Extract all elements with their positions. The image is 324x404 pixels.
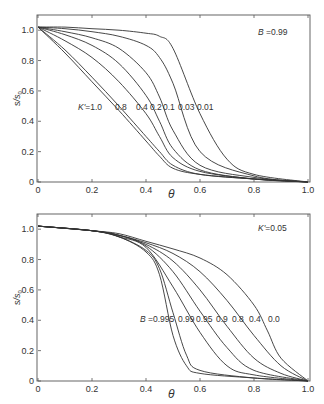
curve-label-b-0.9: 0.9 xyxy=(216,314,228,324)
curve-label-b-0.4: 0.4 xyxy=(249,314,261,324)
bottom-y-axis-label: s/s0 xyxy=(12,289,23,305)
curve-label-k-1.0: K'=1.0 xyxy=(78,102,102,112)
curve-label-k-0.8: 0.8 xyxy=(115,102,127,112)
curve-label-k-0.01: 0.01 xyxy=(197,102,214,112)
curve-label-b-0.99: 0.99 xyxy=(178,314,195,324)
bottom-annotation: K'=0.05 xyxy=(258,223,287,233)
bottom-chart-panel: 00.20.40.60.81.0 00.20.40.60.81.0 θ s/s0… xyxy=(12,214,314,401)
top-annotation: B =0.99 xyxy=(258,27,288,37)
x-tick-label: 0.2 xyxy=(86,384,99,394)
top-x-axis-label: θ xyxy=(168,187,175,201)
curve-b-0.0 xyxy=(38,226,308,381)
bottom-x-axis-label: θ xyxy=(168,387,175,401)
x-tick-label: 0.4 xyxy=(140,384,153,394)
y-tick-label: 0.6 xyxy=(21,285,34,295)
x-tick-label: 0.6 xyxy=(194,384,207,394)
top-y-axis-ticks: 00.20.40.60.81.0 xyxy=(21,25,41,187)
bottom-x-axis-ticks: 00.20.40.60.81.0 xyxy=(35,214,314,394)
curve-label-b-0.0: 0.0 xyxy=(268,314,280,324)
x-tick-label: 0.4 xyxy=(140,185,153,195)
curve-label-b-0.8: 0.8 xyxy=(232,314,244,324)
bottom-plot-frame xyxy=(37,214,310,381)
x-tick-label: 0.2 xyxy=(86,185,99,195)
y-tick-label: 0.6 xyxy=(21,86,34,96)
x-tick-label: 0.8 xyxy=(248,185,261,195)
top-curve-labels: K'=1.0 0.8 0.4 0.2 0.1 0.03 0.01 xyxy=(78,102,214,112)
top-chart-panel: 00.20.40.60.81.0 00.20.40.60.81.0 θ s/s0… xyxy=(12,15,314,201)
y-tick-label: 1.0 xyxy=(21,224,34,234)
y-tick-label: 0 xyxy=(29,177,34,187)
curve-label-b-0.95: 0.95 xyxy=(196,314,213,324)
curve-label-k-0.2: 0.2 xyxy=(150,102,162,112)
x-tick-label: 0 xyxy=(35,384,40,394)
top-y-axis-label: s/s0 xyxy=(12,90,23,106)
x-tick-label: 1.0 xyxy=(302,384,315,394)
y-tick-label: 0.8 xyxy=(21,255,34,265)
y-tick-label: 0.8 xyxy=(21,56,34,66)
y-tick-label: 0.4 xyxy=(21,116,34,126)
bottom-y-axis-ticks: 00.20.40.60.81.0 xyxy=(21,224,41,386)
top-plot-frame xyxy=(37,15,310,182)
y-tick-label: 0.2 xyxy=(21,346,34,356)
y-tick-label: 0.4 xyxy=(21,315,34,325)
bottom-curves xyxy=(38,226,308,381)
y-tick-label: 0.2 xyxy=(21,147,34,157)
x-tick-label: 0.6 xyxy=(194,185,207,195)
curve-label-k-0.03: 0.03 xyxy=(178,102,195,112)
x-tick-label: 1.0 xyxy=(302,185,315,195)
x-tick-label: 0 xyxy=(35,185,40,195)
curve-label-b-0.995: B =0.995 xyxy=(140,314,175,324)
bottom-curve-labels: B =0.995 0.99 0.95 0.9 0.8 0.4 0.0 xyxy=(140,314,280,324)
y-tick-label: 0 xyxy=(29,376,34,386)
x-tick-label: 0.8 xyxy=(248,384,261,394)
y-tick-label: 1.0 xyxy=(21,25,34,35)
curve-label-k-0.4: 0.4 xyxy=(136,102,148,112)
figure: 00.20.40.60.81.0 00.20.40.60.81.0 θ s/s0… xyxy=(0,0,324,404)
curve-label-k-0.1: 0.1 xyxy=(163,102,175,112)
